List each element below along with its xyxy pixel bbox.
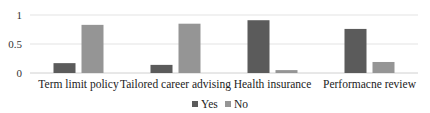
x-category-label: Tailored career advising (120, 78, 231, 91)
bar-no (276, 70, 298, 73)
y-tick-label: 1 (17, 9, 23, 21)
legend-label-no: No (234, 98, 248, 110)
y-axis: 00.51 (8, 9, 22, 79)
bar-no (82, 25, 104, 73)
bar-yes (54, 63, 76, 73)
x-category-label: Term limit policy (38, 78, 119, 91)
y-tick-label: 0.5 (8, 38, 22, 50)
legend-swatch-no (225, 101, 231, 107)
legend-label-yes: Yes (201, 98, 218, 110)
bars (54, 20, 395, 73)
bar-no (179, 24, 201, 73)
x-category-label: Health insurance (234, 78, 312, 90)
legend-swatch-yes (192, 101, 198, 107)
bar-chart: 00.51 Term limit policyTailored career a… (0, 0, 430, 113)
bar-no (373, 62, 395, 73)
legend: YesNo (192, 98, 248, 110)
bar-yes (248, 20, 270, 73)
bar-yes (151, 65, 173, 73)
x-category-label: Performacne review (323, 78, 417, 90)
x-axis: Term limit policyTailored career advisin… (38, 78, 416, 91)
bar-yes (345, 29, 367, 73)
y-tick-label: 0 (17, 67, 23, 79)
